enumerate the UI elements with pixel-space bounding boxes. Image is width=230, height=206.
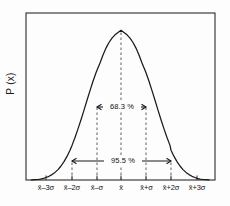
x-axis-ticks (46, 176, 197, 181)
one-sigma-percent-label: 68.3 % (103, 102, 141, 111)
normal-distribution-figure: P (x) 68.3 % 95.5 % x̄–3σ x̄–2σ x̄–σ x̄ … (0, 0, 230, 206)
two-sigma-percent-label: 95.5 % (104, 156, 142, 165)
y-axis-title: P (x) (5, 62, 16, 106)
x-tick-label-plus-3-sigma: x̄+3σ (178, 183, 216, 192)
plot-frame (26, 13, 215, 180)
